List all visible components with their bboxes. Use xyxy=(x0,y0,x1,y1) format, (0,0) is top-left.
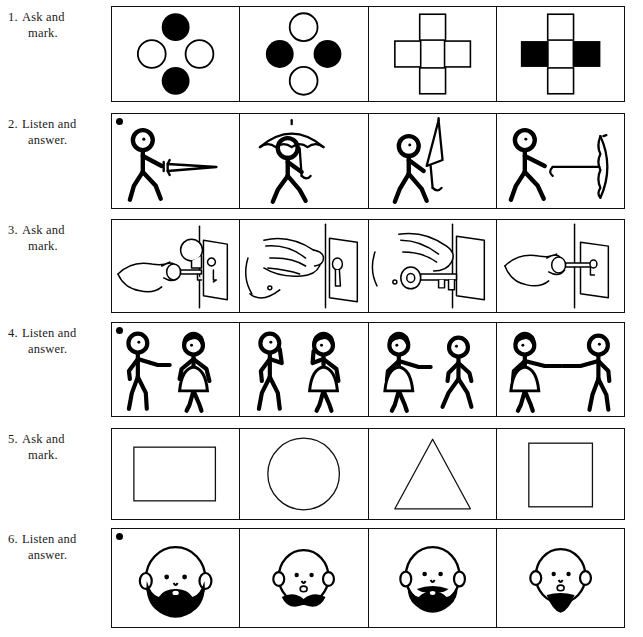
exercise-6-panel-4[interactable] xyxy=(497,529,624,627)
face-goatee-triangle xyxy=(497,529,624,627)
exercise-label-6: 6.Listen andanswer. xyxy=(8,532,106,563)
face-beard-and-mustache xyxy=(369,529,496,627)
two-figures-woman-points-at-man-walking xyxy=(369,323,496,416)
exercise-row-6: 6.Listen andanswer. xyxy=(0,528,643,628)
exercise-number-1: 1. xyxy=(8,10,22,26)
exercise-number-3: 3. xyxy=(8,223,22,239)
exercise-1-panel-1[interactable] xyxy=(112,7,240,101)
exercise-number-2: 2. xyxy=(8,117,22,133)
exercise-instruction-5-line1: Ask and xyxy=(22,432,65,446)
exercise-label-3: 3.Ask andmark. xyxy=(8,223,106,254)
exercise-6-panel-1[interactable] xyxy=(112,529,240,627)
shape-square xyxy=(497,429,624,519)
exercise-label-1: 1.Ask andmark. xyxy=(8,10,106,41)
exercise-5-panel-4[interactable] xyxy=(497,429,624,519)
exercise-2-panels xyxy=(111,113,625,209)
exercise-label-5: 5.Ask andmark. xyxy=(8,432,106,463)
exercise-4-panels xyxy=(111,322,625,417)
exercise-row-1: 1.Ask andmark. xyxy=(0,6,643,102)
exercise-2-panel-1[interactable] xyxy=(112,114,240,208)
exercise-3-panels xyxy=(111,219,625,313)
hand-key-into-keyhole xyxy=(497,220,624,312)
exercise-4-panel-2[interactable] xyxy=(240,323,368,416)
exercise-5-panel-1[interactable] xyxy=(112,429,240,519)
exercise-4-panel-3[interactable] xyxy=(369,323,497,416)
face-full-beard-large xyxy=(112,529,239,627)
exercise-1-panel-4[interactable] xyxy=(497,7,624,101)
exercise-2-panel-4[interactable] xyxy=(497,114,624,208)
exercise-6-panel-2[interactable] xyxy=(240,529,368,627)
exercise-1-panel-3[interactable] xyxy=(369,7,497,101)
exercise-number-4: 4. xyxy=(8,326,22,342)
exercise-number-5: 5. xyxy=(8,432,22,448)
exercise-4-panel-4[interactable] xyxy=(497,323,624,416)
exercise-6-panels xyxy=(111,528,625,628)
exercise-instruction-5-line2: mark. xyxy=(22,448,100,464)
exercise-row-2: 2.Listen andanswer. xyxy=(0,113,643,209)
exercise-number-6: 6. xyxy=(8,532,22,548)
exercise-3-panel-1[interactable] xyxy=(112,220,240,312)
hand-gripping-knob xyxy=(240,220,367,312)
exercise-instruction-4-line1: Listen and xyxy=(22,326,76,340)
shape-circle xyxy=(240,429,367,519)
exercise-2-panel-2[interactable] xyxy=(240,114,368,208)
exercise-instruction-6-line1: Listen and xyxy=(22,532,76,546)
two-figures-man-points-at-woman xyxy=(112,323,239,416)
exercise-row-5: 5.Ask andmark. xyxy=(0,428,643,520)
dots-cross-circles-horizontal-filled xyxy=(240,7,367,101)
exercise-row-4: 4.Listen andanswer. xyxy=(0,322,643,417)
shape-triangle xyxy=(369,429,496,519)
exercise-instruction-1-line1: Ask and xyxy=(22,10,65,24)
exercise-4-panel-1[interactable] xyxy=(112,323,240,416)
exercise-5-panel-2[interactable] xyxy=(240,429,368,519)
exercise-label-4: 4.Listen andanswer. xyxy=(8,326,106,357)
exercise-label-2: 2.Listen andanswer. xyxy=(8,117,106,148)
face-mustache-goatee-small xyxy=(240,529,367,627)
exercise-instruction-4-line2: answer. xyxy=(22,342,100,358)
exercise-1-panels xyxy=(111,6,625,102)
worksheet-page: 1.Ask andmark. xyxy=(0,0,643,637)
exercise-5-panels xyxy=(111,428,625,520)
exercise-instruction-1-line2: mark. xyxy=(22,26,100,42)
exercise-3-panel-2[interactable] xyxy=(240,220,368,312)
figure-umbrella-closed-up xyxy=(369,114,496,208)
dots-cross-squares-horizontal-filled xyxy=(497,7,624,101)
dots-cross-circles-vertical-filled xyxy=(112,7,239,101)
two-figures-pointing-at-each-other xyxy=(497,323,624,416)
exercise-3-panel-4[interactable] xyxy=(497,220,624,312)
figure-umbrella-closed-forward xyxy=(112,114,239,208)
exercise-instruction-2-line2: answer. xyxy=(22,133,100,149)
shape-rectangle xyxy=(112,429,239,519)
exercise-1-panel-2[interactable] xyxy=(240,7,368,101)
exercise-instruction-3-line2: mark. xyxy=(22,239,100,255)
exercise-3-panel-3[interactable] xyxy=(369,220,497,312)
exercise-instruction-2-line1: Listen and xyxy=(22,117,76,131)
hand-key-lock-with-knob xyxy=(112,220,239,312)
exercise-row-3: 3.Ask andmark. xyxy=(0,219,643,313)
exercise-instruction-3-line1: Ask and xyxy=(22,223,65,237)
exercise-5-panel-3[interactable] xyxy=(369,429,497,519)
exercise-6-panel-3[interactable] xyxy=(369,529,497,627)
exercise-2-panel-3[interactable] xyxy=(369,114,497,208)
figure-umbrella-open-overhead xyxy=(240,114,367,208)
exercise-instruction-6-line2: answer. xyxy=(22,548,100,564)
figure-umbrella-open-sideways xyxy=(497,114,624,208)
two-figures-both-hand-to-ear xyxy=(240,323,367,416)
dots-cross-squares-all-open xyxy=(369,7,496,101)
hand-with-large-key xyxy=(369,220,496,312)
